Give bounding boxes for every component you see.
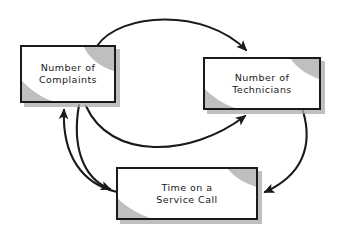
node-number-of-technicians[interactable]: Number of Technicians <box>203 57 321 110</box>
corner-swoosh-icon <box>222 169 256 193</box>
arrow-time-to-technicians <box>86 106 245 147</box>
node-time-on-a-service-call[interactable]: Time on a Service Call <box>116 167 258 220</box>
node-number-of-complaints[interactable]: Number of Complaints <box>20 45 116 103</box>
arrow-time-to-complaints <box>64 110 117 192</box>
diagram-canvas: Number of Complaints Number of Technicia… <box>0 0 340 237</box>
arrow-technicians-to-time <box>265 111 307 192</box>
node-label: Time on a Service Call <box>156 182 217 206</box>
arrow-complaints-to-technicians <box>97 20 246 51</box>
node-label: Number of Technicians <box>232 72 292 96</box>
corner-swoosh-icon <box>205 86 235 108</box>
node-label: Number of Complaints <box>39 62 97 86</box>
corner-swoosh-icon <box>118 196 150 218</box>
